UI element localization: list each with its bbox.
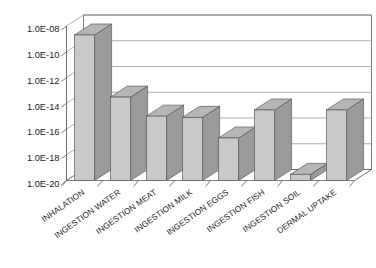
bar bbox=[74, 24, 111, 181]
y-axis-tick-label: 1.0E-08 bbox=[27, 24, 60, 34]
bar-chart: 1.0E-081.0E-101.0E-121.0E-141.0E-161.0E-… bbox=[0, 0, 376, 268]
bar bbox=[218, 127, 255, 181]
y-axis-tick-label: 1.0E-14 bbox=[27, 102, 60, 112]
bar bbox=[146, 105, 183, 180]
y-axis-tick-label: 1.0E-18 bbox=[27, 153, 60, 163]
y-axis-tick-label: 1.0E-12 bbox=[27, 76, 60, 86]
bar bbox=[254, 99, 291, 181]
bar bbox=[110, 86, 147, 180]
y-axis-tick-label: 1.0E-20 bbox=[27, 179, 60, 189]
chart-canvas: 1.0E-081.0E-101.0E-121.0E-141.0E-161.0E-… bbox=[0, 0, 376, 268]
bar bbox=[182, 106, 219, 180]
y-axis-tick-label: 1.0E-16 bbox=[27, 127, 60, 137]
bar bbox=[326, 99, 363, 181]
y-axis-tick-label: 1.0E-10 bbox=[27, 50, 60, 60]
